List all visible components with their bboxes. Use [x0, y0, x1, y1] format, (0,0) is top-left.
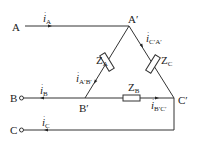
terminal-c-label: C [10, 124, 17, 136]
arrow-ibc-icon [155, 97, 159, 100]
dot-ib: · [41, 81, 43, 89]
dot-iab: · [77, 69, 79, 77]
delta-circuit-diagram: A B C A′ B′ C′ ZA ZB ZC iA iB iC · · · i… [0, 0, 198, 145]
terminal-b-label: B [10, 92, 17, 104]
dot-ic: · [43, 113, 45, 121]
dot-ia: · [44, 9, 46, 17]
node-a-prime-label: A′ [128, 13, 138, 25]
terminal-b-node [20, 96, 24, 100]
impedance-zb [123, 95, 140, 101]
node-c-prime-label: C′ [178, 94, 188, 106]
dot-ibc: · [152, 96, 154, 104]
impedance-zb-label: ZB [128, 81, 140, 95]
node-b-prime-label: B′ [79, 102, 89, 114]
terminal-a-label: A [12, 21, 20, 33]
impedance-zc [146, 55, 161, 73]
terminal-c-node [20, 128, 24, 132]
impedance-zc-label: ZC [161, 54, 173, 68]
dot-ica: · [147, 29, 149, 37]
